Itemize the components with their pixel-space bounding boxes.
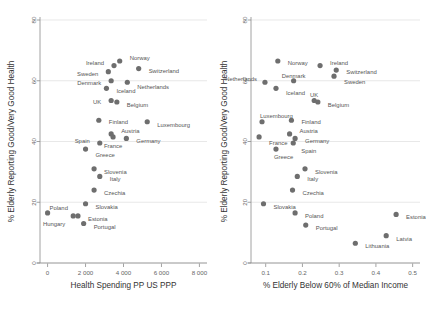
point-label-france: France <box>104 143 123 149</box>
point-label-iceland: Iceland <box>116 88 135 94</box>
point-label-germany: Germany <box>305 138 329 144</box>
point-label-slovakia: Slovakia <box>273 204 296 210</box>
point-label-denmark: Denmark <box>282 73 306 79</box>
data-point-spain[interactable] <box>97 140 102 145</box>
data-point-netherlands[interactable] <box>262 80 267 85</box>
point-label-luxembourg: Luxembourg <box>260 113 293 119</box>
data-point-slovenia[interactable] <box>302 166 307 171</box>
left-x-axis-title: Health Spending PP US PPP <box>71 281 177 290</box>
point-label-spain: Spain <box>301 148 316 154</box>
data-point-czechia[interactable] <box>290 188 295 193</box>
x-ticklabel-1: 0.2 <box>298 269 307 276</box>
data-point-spain[interactable] <box>291 140 296 145</box>
point-label-switzerland: Switzerland <box>346 69 376 75</box>
point-label-poland: Poland <box>50 205 68 211</box>
point-label-norway: Norway <box>130 55 150 61</box>
data-point-denmark[interactable] <box>291 78 296 83</box>
data-point-belgium[interactable] <box>114 99 119 104</box>
point-label-switzerland: Switzerland <box>149 68 179 74</box>
point-label-poland: Poland <box>305 213 323 219</box>
data-point-germany[interactable] <box>124 136 129 141</box>
panel-elderly-income: 0204060800.10.20.30.40.5% Elderly Below … <box>213 0 426 311</box>
right-y-ticks: 020406080 <box>241 16 251 265</box>
data-point-finland[interactable] <box>96 118 101 123</box>
y-ticklabel-0: 0 <box>241 261 248 265</box>
data-point-switzerland[interactable] <box>136 66 141 71</box>
data-point-austria[interactable] <box>287 131 292 136</box>
x-ticklabel-3: 6 000 <box>154 269 170 276</box>
point-label-ireland: Ireland <box>86 60 104 66</box>
y-ticklabel-40: 40 <box>241 138 248 145</box>
data-point-poland[interactable] <box>45 210 50 215</box>
left-data-points: NorwayIrelandSwitzerlandSwedenDenmarkNet… <box>43 55 190 230</box>
data-point-hungary[interactable] <box>71 213 76 218</box>
left-y-ticks: 020406080 <box>30 16 40 265</box>
data-point-luxembourg[interactable] <box>145 119 150 124</box>
point-label-slovenia: Slovenia <box>104 169 127 175</box>
y-ticklabel-20: 20 <box>241 198 248 205</box>
point-label-czechia: Czechia <box>104 190 126 196</box>
data-point-estonia[interactable] <box>394 212 399 217</box>
data-point-france[interactable] <box>110 134 115 139</box>
data-point-portugal[interactable] <box>81 221 86 226</box>
point-label-portugal: Portugal <box>316 225 338 231</box>
point-label-finland: Finland <box>109 119 128 125</box>
point-label-denmark: Denmark <box>77 80 101 86</box>
data-point-ireland[interactable] <box>111 63 116 68</box>
data-point-luxembourg[interactable] <box>259 119 264 124</box>
x-ticklabel-2: 4 000 <box>116 269 132 276</box>
point-label-netherlands: Netherlands <box>225 76 257 82</box>
point-label-lithuania: Lithuania <box>365 243 390 249</box>
point-label-luxembourg: Luxembourg <box>157 122 190 128</box>
data-point-sweden[interactable] <box>331 74 336 79</box>
point-label-sweden: Sweden <box>344 79 365 85</box>
point-label-greece: Greece <box>96 152 116 158</box>
data-point-slovenia[interactable] <box>91 166 96 171</box>
data-point-estonia[interactable] <box>75 213 80 218</box>
data-point-portugal[interactable] <box>303 222 308 227</box>
right-scatter-plot: 0204060800.10.20.30.40.5% Elderly Below … <box>213 0 426 311</box>
data-point-norway[interactable] <box>117 58 122 63</box>
data-point-poland[interactable] <box>292 210 297 215</box>
x-ticklabel-3: 0.4 <box>372 269 381 276</box>
point-label-estonia: Estonia <box>406 214 426 220</box>
data-point-iceland[interactable] <box>273 86 278 91</box>
data-point-czechia[interactable] <box>91 188 96 193</box>
y-ticklabel-80: 80 <box>30 16 37 23</box>
data-point-greece[interactable] <box>83 146 88 151</box>
data-point-sweden[interactable] <box>106 69 111 74</box>
data-point-italy[interactable] <box>97 174 102 179</box>
y-ticklabel-0: 0 <box>30 261 37 265</box>
data-point-belgium[interactable] <box>315 99 320 104</box>
data-point-uk[interactable] <box>109 98 114 103</box>
data-point-ireland[interactable] <box>317 63 322 68</box>
data-point-latvia[interactable] <box>384 233 389 238</box>
y-ticklabel-80: 80 <box>241 16 248 23</box>
data-point-netherlands[interactable] <box>125 80 130 85</box>
left-scatter-plot: 02040608002 0004 0006 0008 000Health Spe… <box>0 0 213 311</box>
data-point-france[interactable] <box>256 134 261 139</box>
x-ticklabel-0: 0 <box>46 269 50 276</box>
y-ticklabel-20: 20 <box>30 198 37 205</box>
data-point-finland[interactable] <box>289 118 294 123</box>
data-point-lithuania[interactable] <box>353 241 358 246</box>
data-point-switzerland[interactable] <box>334 68 339 73</box>
left-x-ticks: 02 0004 0006 0008 000 <box>46 264 208 277</box>
point-label-latvia: Latvia <box>396 236 412 242</box>
data-point-slovakia[interactable] <box>261 201 266 206</box>
point-label-austria: Austria <box>300 128 319 134</box>
data-point-iceland[interactable] <box>104 86 109 91</box>
point-label-italy: Italy <box>307 176 318 182</box>
point-label-spain: Spain <box>75 138 90 144</box>
point-label-greece: Greece <box>274 154 294 160</box>
data-point-italy[interactable] <box>295 174 300 179</box>
point-label-norway: Norway <box>288 60 308 66</box>
right-x-ticks: 0.10.20.30.40.5 <box>261 264 417 277</box>
data-point-slovakia[interactable] <box>83 201 88 206</box>
data-point-denmark[interactable] <box>109 78 114 83</box>
point-label-austria: Austria <box>121 128 140 134</box>
data-point-greece[interactable] <box>273 146 278 151</box>
data-point-norway[interactable] <box>275 58 280 63</box>
y-ticklabel-60: 60 <box>30 77 37 84</box>
data-point-germany[interactable] <box>292 136 297 141</box>
